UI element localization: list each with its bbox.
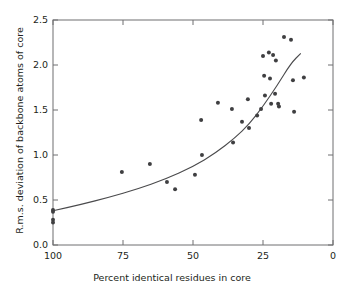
- y-tick-label: 0.5: [20, 194, 48, 205]
- data-point: [292, 110, 296, 114]
- data-point: [277, 104, 281, 108]
- x-axis-label: Percent identical residues in core: [0, 272, 344, 283]
- data-point: [51, 210, 55, 214]
- x-tick-label: 25: [247, 250, 279, 261]
- data-point: [291, 78, 295, 82]
- data-point: [173, 187, 177, 191]
- data-point: [51, 221, 55, 225]
- x-tick-label: 0: [317, 250, 344, 261]
- data-point: [246, 97, 250, 101]
- data-point: [282, 35, 286, 39]
- data-point: [273, 92, 277, 96]
- data-point: [230, 107, 234, 111]
- data-point: [120, 170, 124, 174]
- y-tick-label: 2.5: [20, 14, 48, 25]
- data-point: [262, 74, 266, 78]
- scatter-plot-canvas: [0, 0, 344, 292]
- chart-figure: R.m.s. deviation of backbone atoms of co…: [0, 0, 344, 292]
- data-point: [255, 113, 259, 117]
- x-tick-label: 75: [107, 250, 139, 261]
- data-point: [193, 173, 197, 177]
- data-point: [289, 38, 293, 42]
- y-tick-label: 0.0: [20, 239, 48, 250]
- data-point: [231, 140, 235, 144]
- data-point: [259, 107, 263, 111]
- data-point: [263, 94, 267, 98]
- x-tick-label: 50: [177, 250, 209, 261]
- data-point: [240, 120, 244, 124]
- data-point: [216, 101, 220, 105]
- y-tick-label: 2.0: [20, 59, 48, 70]
- data-point: [200, 153, 204, 157]
- x-tick-label: 100: [37, 250, 69, 261]
- data-point: [267, 50, 271, 54]
- data-point: [274, 59, 278, 63]
- data-point: [268, 77, 272, 81]
- plot-frame: [53, 20, 333, 245]
- data-point: [271, 53, 275, 57]
- data-point: [302, 76, 306, 80]
- data-point: [269, 102, 273, 106]
- data-point: [247, 126, 251, 130]
- y-tick-label: 1.0: [20, 149, 48, 160]
- data-point: [165, 180, 169, 184]
- data-point: [199, 118, 203, 122]
- data-point: [148, 162, 152, 166]
- data-point: [261, 54, 265, 58]
- y-tick-label: 1.5: [20, 104, 48, 115]
